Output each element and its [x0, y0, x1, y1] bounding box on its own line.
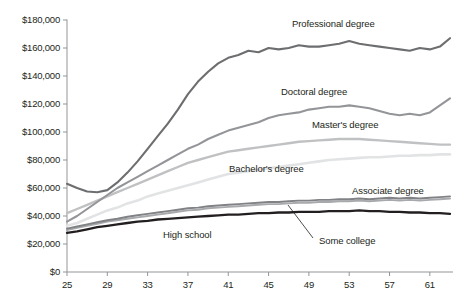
- x-axis-tick-label: 29: [87, 279, 127, 290]
- x-axis-tick-label: 25: [47, 279, 87, 290]
- doctoral-degree-label: Doctoral degree: [281, 86, 347, 97]
- professional-degree-label: Professional degree: [292, 18, 375, 29]
- y-axis-tick-label: $100,000: [0, 126, 60, 137]
- x-axis-tick-label: 49: [289, 279, 329, 290]
- high-school-label: High school: [163, 229, 212, 240]
- y-axis-tick-label: $120,000: [0, 98, 60, 109]
- x-axis-tick-label: 45: [249, 279, 289, 290]
- x-axis-tick-label: 37: [168, 279, 208, 290]
- y-axis-tick-label: $180,000: [0, 14, 60, 25]
- some-college-leader: [288, 205, 313, 238]
- chart-plot-area: [0, 0, 453, 302]
- y-axis-tick-label: $20,000: [0, 238, 60, 249]
- earnings-by-education-line-chart: $0$20,000$40,000$60,000$80,000$100,000$1…: [0, 0, 453, 302]
- x-axis-tick-label: 61: [410, 279, 450, 290]
- series-line-high-school: [67, 210, 450, 232]
- some-college-label: Some college: [319, 235, 375, 246]
- y-axis-tick-label: $60,000: [0, 182, 60, 193]
- x-axis-tick-label: 57: [370, 279, 410, 290]
- x-axis-tick-label: 33: [128, 279, 168, 290]
- x-axis-tick-label: 41: [208, 279, 248, 290]
- y-axis-tick-label: $80,000: [0, 154, 60, 165]
- y-axis-tick-label: $40,000: [0, 210, 60, 221]
- y-axis-tick-label: $160,000: [0, 42, 60, 53]
- y-axis-tick-label: $0: [0, 266, 60, 277]
- associate-degree-label: Associate degree: [352, 185, 424, 196]
- x-axis-tick-label: 53: [329, 279, 369, 290]
- bachelors-degree-label: Bachelor's degree: [229, 163, 304, 174]
- masters-degree-label: Master's degree: [312, 119, 378, 130]
- y-axis-tick-label: $140,000: [0, 70, 60, 81]
